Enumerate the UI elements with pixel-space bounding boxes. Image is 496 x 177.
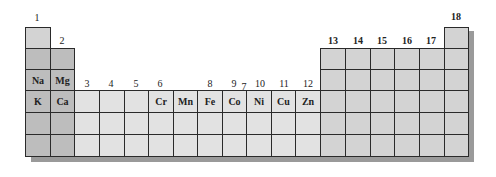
group-label-2: 2 xyxy=(50,35,74,46)
cell-g5-p6 xyxy=(124,134,149,157)
cell-g14-p4 xyxy=(345,90,371,113)
cell-g4-p5 xyxy=(99,112,125,135)
group-label-6: 6 xyxy=(148,78,172,89)
cell-g15-p5 xyxy=(370,112,395,135)
cell-g1-p1 xyxy=(25,27,51,49)
cell-g9-p5 xyxy=(222,112,247,135)
cell-g14-p5 xyxy=(345,112,371,135)
cell-zn: Zn xyxy=(295,90,321,113)
cell-ca: Ca xyxy=(50,90,75,113)
cell-g2-p6 xyxy=(50,134,75,157)
cell-g7-p6 xyxy=(173,134,198,157)
cell-g4-p4 xyxy=(99,90,125,113)
cell-g12-p6 xyxy=(295,134,321,157)
cell-g1-p6 xyxy=(25,134,51,157)
cell-g16-p5 xyxy=(394,112,420,135)
cell-g6-p5 xyxy=(148,112,174,135)
cell-cr: Cr xyxy=(148,90,174,113)
cell-g13-p4 xyxy=(320,90,346,113)
cell-g2-p2 xyxy=(50,48,75,70)
cell-g15-p3 xyxy=(370,69,395,91)
cell-g3-p6 xyxy=(74,134,100,157)
cell-g14-p2 xyxy=(345,48,371,70)
cell-g18-p4 xyxy=(444,90,469,113)
cell-fe: Fe xyxy=(197,90,223,113)
cell-g16-p6 xyxy=(394,134,420,157)
cell-g17-p6 xyxy=(419,134,445,157)
cell-g1-p2 xyxy=(25,48,51,70)
cell-g3-p5 xyxy=(74,112,100,135)
cell-g4-p6 xyxy=(99,134,125,157)
group-label-14: 14 xyxy=(346,35,370,46)
group-label-11: 11 xyxy=(272,78,296,89)
cell-co: Co xyxy=(222,90,247,113)
group-label-17: 17 xyxy=(419,35,443,46)
cell-g1-p5 xyxy=(25,112,51,135)
group-label-12: 12 xyxy=(296,78,320,89)
cell-g16-p4 xyxy=(394,90,420,113)
cell-g14-p6 xyxy=(345,134,371,157)
group-label-1: 1 xyxy=(25,12,49,23)
cell-g17-p5 xyxy=(419,112,445,135)
cell-g10-p5 xyxy=(246,112,272,135)
cell-cu: Cu xyxy=(271,90,296,113)
group-label-16: 16 xyxy=(395,35,419,46)
cell-g8-p6 xyxy=(197,134,223,157)
cell-g16-p3 xyxy=(394,69,420,91)
cell-g2-p5 xyxy=(50,112,75,135)
cell-na: Na xyxy=(25,69,51,91)
cell-g6-p6 xyxy=(148,134,174,157)
group-label-5: 5 xyxy=(124,78,148,89)
cell-g13-p5 xyxy=(320,112,346,135)
cell-ni: Ni xyxy=(246,90,272,113)
cell-g11-p5 xyxy=(271,112,296,135)
group-label-15: 15 xyxy=(370,35,394,46)
cell-g5-p4 xyxy=(124,90,149,113)
cell-g13-p2 xyxy=(320,48,346,70)
cell-g15-p2 xyxy=(370,48,395,70)
group-label-13: 13 xyxy=(321,35,345,46)
cell-g15-p6 xyxy=(370,134,395,157)
group-label-8: 8 xyxy=(198,78,222,89)
cell-g3-p4 xyxy=(74,90,100,113)
cell-g17-p2 xyxy=(419,48,445,70)
cell-g18-p6 xyxy=(444,134,469,157)
group-label-10: 10 xyxy=(248,78,272,89)
cell-g17-p3 xyxy=(419,69,445,91)
group-label-18: 18 xyxy=(444,11,468,22)
cell-g18-p2 xyxy=(444,48,469,70)
cell-g17-p4 xyxy=(419,90,445,113)
cell-g8-p5 xyxy=(197,112,223,135)
cell-k: K xyxy=(25,90,51,113)
cell-mn: Mn xyxy=(173,90,198,113)
cell-g10-p6 xyxy=(246,134,272,157)
group-label-4: 4 xyxy=(99,78,123,89)
cell-g14-p3 xyxy=(345,69,371,91)
cell-g7-p5 xyxy=(173,112,198,135)
cell-g5-p5 xyxy=(124,112,149,135)
cell-g18-p5 xyxy=(444,112,469,135)
cell-g18-p1 xyxy=(444,27,469,49)
group-label-3: 3 xyxy=(75,78,99,89)
cell-g9-p6 xyxy=(222,134,247,157)
cell-g13-p6 xyxy=(320,134,346,157)
cell-g15-p4 xyxy=(370,90,395,113)
cell-g11-p6 xyxy=(271,134,296,157)
cell-mg: Mg xyxy=(50,69,75,91)
cell-g16-p2 xyxy=(394,48,420,70)
cell-g12-p5 xyxy=(295,112,321,135)
cell-g13-p3 xyxy=(320,69,346,91)
cell-g18-p3 xyxy=(444,69,469,91)
